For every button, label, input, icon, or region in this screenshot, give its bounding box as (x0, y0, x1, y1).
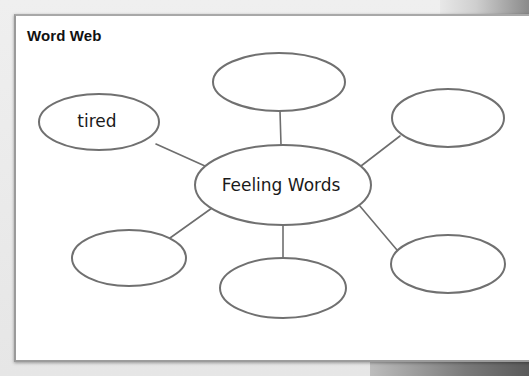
connector-lower-left (170, 208, 212, 238)
connector-upper-right (361, 136, 400, 166)
node-upper-right-ellipse[interactable] (392, 89, 504, 147)
node-lower-right-ellipse[interactable] (391, 235, 505, 293)
node-bottom-ellipse[interactable] (220, 258, 346, 318)
center-node-label: Feeling Words (222, 175, 341, 195)
connector-lower-right (359, 205, 397, 250)
connector-top (280, 111, 281, 145)
node-upper-left-label: tired (77, 111, 116, 131)
node-lower-left-ellipse[interactable] (72, 230, 186, 286)
connector-upper-left (156, 144, 205, 166)
page-background: Word Web tired Feeling Words (0, 0, 529, 376)
node-top-ellipse[interactable] (213, 53, 345, 111)
